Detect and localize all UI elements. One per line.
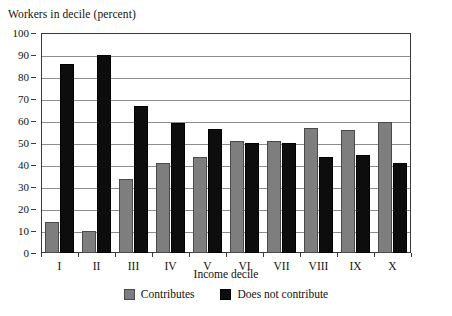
bar-chart: Workers in decile (percent) 010203040506… [0, 0, 452, 316]
x-tick-mark [226, 253, 227, 257]
y-tick-label: 20 [18, 204, 29, 215]
y-tick-label: 100 [13, 28, 30, 39]
bar-contributes-V [193, 157, 207, 253]
x-tick-mark [115, 253, 116, 257]
x-tick-mark [411, 253, 412, 257]
y-tick-mark [31, 165, 36, 166]
legend-label: Does not contribute [237, 288, 328, 301]
bar-does-not-contribute-IX [356, 155, 370, 253]
y-tick-mark [31, 209, 36, 210]
y-tick-mark [31, 231, 36, 232]
x-tick-mark [78, 253, 79, 257]
legend-swatch-icon [124, 289, 135, 300]
legend-item-not-contributes: Does not contribute [220, 288, 328, 301]
bar-contributes-III [119, 179, 133, 253]
bar-does-not-contribute-III [134, 106, 148, 253]
y-tick-label: 70 [18, 94, 29, 105]
chart-title: Workers in decile (percent) [8, 7, 136, 21]
legend-item-contributes: Contributes [124, 288, 195, 301]
bar-contributes-I [45, 222, 59, 253]
bar-contributes-VI [230, 141, 244, 253]
legend-swatch-icon [220, 289, 231, 300]
bar-does-not-contribute-X [393, 163, 407, 253]
x-tick-mark [337, 253, 338, 257]
bar-does-not-contribute-VI [245, 143, 259, 253]
bar-does-not-contribute-VII [282, 143, 296, 253]
y-tick-mark [31, 143, 36, 144]
y-tick-mark [31, 187, 36, 188]
x-axis-title: Income decile [0, 267, 452, 281]
x-tick-mark [41, 253, 42, 257]
y-tick-label: 60 [18, 116, 29, 127]
y-tick-label: 0 [24, 248, 30, 259]
bar-does-not-contribute-V [208, 129, 222, 253]
bar-contributes-VII [267, 141, 281, 253]
bar-contributes-VIII [304, 128, 318, 253]
y-tick-label: 30 [18, 182, 29, 193]
y-axis: 0102030405060708090100 [0, 33, 36, 253]
bar-contributes-IV [156, 163, 170, 253]
y-tick-mark [31, 253, 36, 254]
y-tick-label: 90 [18, 50, 29, 61]
x-tick-mark [374, 253, 375, 257]
x-tick-mark [263, 253, 264, 257]
x-tick-mark [152, 253, 153, 257]
chart-legend: ContributesDoes not contribute [0, 288, 452, 301]
bar-does-not-contribute-VIII [319, 157, 333, 253]
bar-contributes-II [82, 231, 96, 253]
bar-does-not-contribute-I [60, 64, 74, 253]
bars-layer [41, 33, 411, 253]
y-tick-mark [31, 77, 36, 78]
y-tick-label: 80 [18, 72, 29, 83]
y-tick-label: 10 [18, 226, 29, 237]
y-tick-label: 40 [18, 160, 29, 171]
x-tick-mark [300, 253, 301, 257]
bar-does-not-contribute-IV [171, 123, 185, 253]
y-tick-mark [31, 55, 36, 56]
y-tick-mark [31, 33, 36, 34]
bar-contributes-IX [341, 130, 355, 253]
bar-contributes-X [378, 122, 392, 253]
x-tick-mark [189, 253, 190, 257]
legend-label: Contributes [141, 288, 195, 301]
y-tick-mark [31, 121, 36, 122]
bar-does-not-contribute-II [97, 55, 111, 253]
y-tick-mark [31, 99, 36, 100]
y-tick-label: 50 [18, 138, 29, 149]
